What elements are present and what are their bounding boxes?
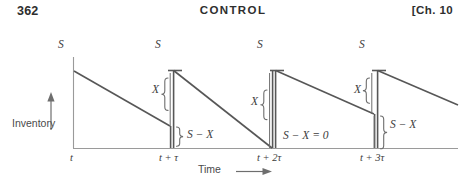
brace-label-x-3: X <box>354 84 361 96</box>
brace-x-2 <box>260 90 267 120</box>
depletion-segment-0 <box>74 71 170 126</box>
x-axis-label: Time <box>198 164 221 175</box>
xtick-label-3: t + 3τ <box>360 153 384 164</box>
brace-label-s-minus-x-1: S − X <box>187 129 213 141</box>
xtick-label-0: t <box>70 153 73 164</box>
peak-label-3: S <box>359 39 365 51</box>
xtick-label-2: t + 2τ <box>257 153 281 164</box>
depletion-segment-3 <box>378 71 458 106</box>
brace-s-minus-x-1 <box>177 127 184 146</box>
inventory-trace <box>74 71 458 149</box>
right-arrow-icon <box>236 168 272 175</box>
peak-label-2: S <box>257 39 263 51</box>
running-head: 362 CONTROL [Ch. 10 <box>0 0 466 26</box>
xtick-label-1: t + τ <box>159 153 178 164</box>
chapter-marker: [Ch. 10 <box>412 4 453 16</box>
y-axis-label: Inventory <box>12 118 55 129</box>
brace-label-x-1: X <box>152 84 159 96</box>
brace-x-3 <box>363 78 370 103</box>
brace-s-minus-x-3 <box>381 116 388 149</box>
brace-label-s-minus-x-3: S − X <box>390 119 416 131</box>
running-head-title: CONTROL <box>0 4 466 16</box>
brace-x-1 <box>161 78 168 110</box>
inventory-sawtooth-figure: Inventory Time S S S S X S − X X S − X =… <box>0 26 466 183</box>
brace-label-s-minus-x-zero: S − X = 0 <box>283 130 329 142</box>
peak-label-1: S <box>155 39 161 51</box>
peak-label-0: S <box>58 39 64 51</box>
brace-label-x-2: X <box>251 96 258 108</box>
